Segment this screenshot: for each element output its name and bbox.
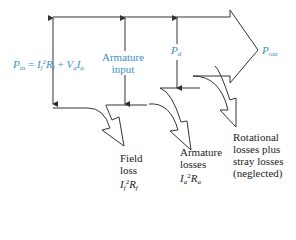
field-loss-arrow	[53, 105, 147, 146]
armature-losses-label: Armature losses Ia2Ra	[180, 146, 222, 188]
p-d-label: Pd	[171, 44, 181, 60]
rotational-losses-label: Rotational losses plus stray losses (neg…	[233, 131, 283, 179]
rotational-loss-arrow	[193, 66, 236, 127]
p-out-label: Pout	[262, 44, 278, 60]
p-in-label: Pin = If2Rf + VaIa	[13, 56, 84, 74]
field-loss-label: Field loss If2Rf	[120, 152, 143, 194]
armature-input-label: Armature input	[102, 51, 144, 75]
armature-loss-arrow	[149, 88, 200, 150]
